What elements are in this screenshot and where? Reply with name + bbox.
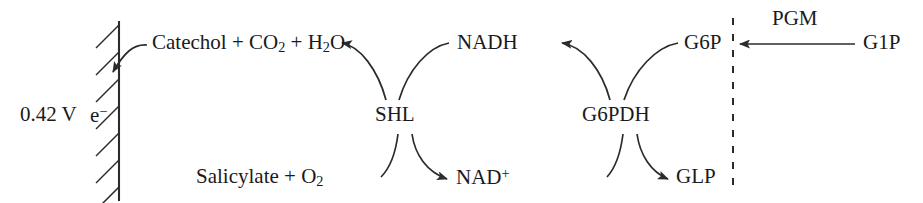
electron-symbol: e — [90, 103, 99, 127]
nad-text: NAD — [456, 165, 502, 189]
potential-value: 0.42 V — [20, 102, 77, 126]
catechol-text: Catechol + CO — [152, 30, 278, 54]
g1p-text: G1P — [863, 30, 900, 54]
electron-charge: − — [99, 103, 107, 119]
enzyme-g6pdh-label: G6PDH — [582, 104, 650, 125]
arc-g6pdh-to-nadh — [562, 43, 610, 100]
salicylate-text: Salicylate + O — [196, 164, 316, 188]
enzyme-shl-label: SHL — [375, 104, 415, 125]
electrode-potential-label: 0.42 V — [20, 104, 77, 125]
h2o-oxygen: O — [330, 30, 345, 54]
o2-subscript: 2 — [316, 173, 323, 189]
nad-plus-charge: + — [502, 165, 510, 181]
reaction-scheme-diagram: 0.42 V e− Catechol + CO2 + H2O Salicylat… — [0, 0, 923, 203]
arc-g6p-to-g6pdh — [624, 43, 678, 100]
enzyme-pgm-label: PGM — [772, 8, 818, 29]
g1p-label: G1P — [863, 32, 900, 53]
pgm-text: PGM — [772, 6, 818, 30]
g6p-label: G6P — [684, 32, 721, 53]
arc-shl-to-catechol — [342, 43, 386, 100]
arc-nadh-to-shl — [399, 43, 449, 100]
g6p-text: G6P — [684, 30, 721, 54]
glp-text: GLP — [676, 164, 716, 188]
electron-carrier-label: e− — [90, 104, 107, 126]
arc-salicylate-to-shl — [381, 134, 398, 177]
catechol-products-label: Catechol + CO2 + H2O — [152, 32, 345, 54]
shl-text: SHL — [375, 102, 415, 126]
nadh-label: NADH — [457, 32, 518, 53]
nadh-text: NADH — [457, 30, 518, 54]
arc-g6pdh-to-glp — [637, 134, 668, 179]
nad-plus-label: NAD+ — [456, 166, 510, 188]
glp-label: GLP — [676, 166, 716, 187]
salicylate-substrate-label: Salicylate + O2 — [196, 166, 323, 188]
arc-nadplus-to-g6pdh — [607, 134, 623, 177]
catechol-plus-h: + H — [285, 30, 323, 54]
arc-shl-to-nadplus — [412, 134, 447, 179]
g6pdh-text: G6PDH — [582, 102, 650, 126]
h2o-subscript: 2 — [323, 39, 330, 55]
